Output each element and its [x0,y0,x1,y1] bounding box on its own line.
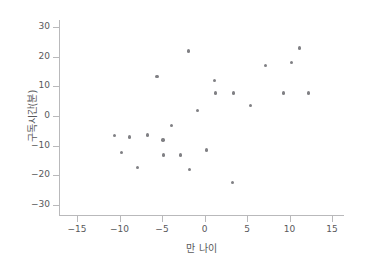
data-point [214,91,217,94]
data-point [188,168,191,171]
x-axis-label: 만 나이 [59,240,344,255]
x-tick-label: 0 [190,225,220,234]
y-tick-label: 0 [26,111,50,120]
x-tick-mark [77,216,78,222]
data-point [249,104,252,107]
data-point [205,148,208,151]
y-tick-label: −10 [26,141,50,150]
data-point [187,49,190,52]
x-tick-label: −10 [105,225,135,234]
data-point [113,134,116,137]
x-tick-label: −15 [62,225,92,234]
plot-area [59,20,344,216]
x-tick-mark [332,216,333,222]
data-point [232,91,235,94]
x-tick-label: −5 [147,225,177,234]
x-tick-mark [120,216,121,222]
data-point [155,75,158,78]
x-tick-mark [247,216,248,222]
x-tick-mark [205,216,206,222]
y-tick-label: −20 [26,170,50,179]
data-point [146,133,149,136]
x-tick-mark [162,216,163,222]
y-tick-label: −30 [26,200,50,209]
data-point [307,91,310,94]
scatter-chart: 구독시간(분) 만 나이 3020100−10−20−30 −15−10−505… [0,0,368,265]
x-tick-label: 5 [232,225,262,234]
data-point [120,151,123,154]
data-point [282,91,285,94]
x-tick-label: 15 [317,225,347,234]
y-tick-label: 30 [26,22,50,31]
x-tick-label: 10 [275,225,305,234]
x-tick-mark [290,216,291,222]
data-point [161,138,164,141]
y-tick-label: 10 [26,81,50,90]
y-tick-label: 20 [26,52,50,61]
